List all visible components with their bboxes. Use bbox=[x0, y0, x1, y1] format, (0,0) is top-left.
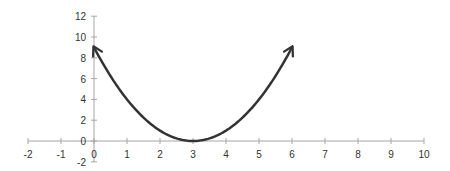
x-tick-label: 9 bbox=[388, 149, 394, 160]
x-tick-label: 7 bbox=[322, 149, 328, 160]
y-tick-label: 8 bbox=[80, 53, 86, 64]
y-tick-label: 4 bbox=[80, 94, 86, 105]
x-tick-label: 2 bbox=[157, 149, 163, 160]
y-tick-label: 12 bbox=[75, 11, 87, 22]
ticks: -2-1012345678910-2024681012 bbox=[24, 11, 430, 168]
x-tick-label: 5 bbox=[256, 149, 262, 160]
x-tick-label: 8 bbox=[355, 149, 361, 160]
y-tick-label: 2 bbox=[80, 115, 86, 126]
x-tick-label: 3 bbox=[190, 149, 196, 160]
x-tick-label: 10 bbox=[418, 149, 430, 160]
y-tick-label: 0 bbox=[80, 136, 86, 147]
x-tick-label: 6 bbox=[289, 149, 295, 160]
x-tick-label: -1 bbox=[57, 149, 66, 160]
parabola-chart: -2-1012345678910-2024681012 bbox=[0, 0, 450, 171]
y-tick-label: 6 bbox=[80, 74, 86, 85]
series-line bbox=[94, 47, 292, 141]
x-tick-label: 1 bbox=[124, 149, 130, 160]
y-tick-label: 10 bbox=[75, 32, 87, 43]
x-tick-label: 4 bbox=[223, 149, 229, 160]
y-tick-label: -2 bbox=[77, 157, 86, 168]
parabola-curve bbox=[94, 47, 292, 141]
x-tick-label: 0 bbox=[91, 149, 97, 160]
x-tick-label: -2 bbox=[24, 149, 33, 160]
